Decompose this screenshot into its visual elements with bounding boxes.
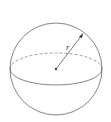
arrowhead-icon: [79, 33, 83, 38]
radius-line: [56, 35, 82, 69]
radius-label: r: [66, 42, 70, 52]
equator-front: [10, 69, 102, 85]
equator-back-dashed: [10, 53, 102, 69]
sphere-diagram: r: [0, 0, 111, 122]
